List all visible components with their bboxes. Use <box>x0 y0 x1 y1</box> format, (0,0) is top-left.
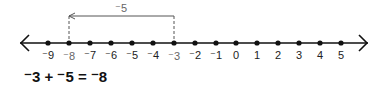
tick-label: ⁻1 <box>210 49 222 61</box>
equation: ⁻3 + ⁻5 = ⁻8 <box>24 68 107 86</box>
tick-label: 1 <box>254 49 260 61</box>
tick-point <box>87 40 92 45</box>
tick-label: ⁻9 <box>42 49 54 61</box>
tick-label: ⁻5 <box>126 49 138 61</box>
tick-point <box>233 40 238 45</box>
tick-label: ⁻4 <box>147 49 159 61</box>
tick-label: 3 <box>296 49 302 61</box>
tick-point <box>108 40 113 45</box>
tick-point <box>317 40 322 45</box>
tick-label: 2 <box>275 49 281 61</box>
tick-label: ⁻7 <box>84 49 96 61</box>
tick-point <box>254 40 259 45</box>
tick-point <box>296 40 301 45</box>
tick-label: ⁻2 <box>189 49 201 61</box>
tick-point <box>213 40 218 45</box>
tick-label: ⁻3 <box>168 50 180 62</box>
tick-label: 5 <box>338 49 344 61</box>
tick-label: ⁻8 <box>63 50 75 62</box>
tick-label: 4 <box>317 49 323 61</box>
tick-point <box>192 40 197 45</box>
tick-point <box>150 40 155 45</box>
tick-point <box>129 40 134 45</box>
tick-point <box>338 40 343 45</box>
jump-arrow: ⁻5 <box>69 2 174 40</box>
tick-label: ⁻6 <box>105 49 117 61</box>
tick-label: 0 <box>233 49 239 61</box>
tick-point <box>45 40 50 45</box>
tick-point <box>66 40 71 45</box>
tick-point <box>275 40 280 45</box>
jump-label: ⁻5 <box>115 2 127 14</box>
tick-point <box>171 40 176 45</box>
